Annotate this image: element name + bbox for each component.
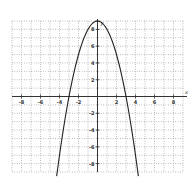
x-axis-label: x xyxy=(184,89,188,95)
y-tick-label: -4 xyxy=(89,127,95,133)
y-tick-label: 8 xyxy=(91,26,95,32)
y-tick-label: -6 xyxy=(89,144,95,150)
x-tick-label: 2 xyxy=(115,99,119,105)
x-tick-label: 4 xyxy=(134,99,138,105)
y-tick-label: 2 xyxy=(91,77,95,83)
x-tick-label: 6 xyxy=(153,99,157,105)
x-tick-label: 8 xyxy=(172,99,176,105)
x-tick-label: -4 xyxy=(57,99,63,105)
x-tick-label: -2 xyxy=(76,99,82,105)
y-tick-label: -8 xyxy=(89,161,95,167)
axes xyxy=(12,19,187,172)
x-tick-label: -6 xyxy=(38,99,44,105)
parabola-chart: -8-6-4-22468-8-6-4-22468 x y xyxy=(0,0,190,178)
x-tick-label: -8 xyxy=(19,99,25,105)
y-tick-label: 6 xyxy=(91,43,95,49)
y-tick-label: -2 xyxy=(89,110,95,116)
y-tick-label: 4 xyxy=(91,60,95,66)
